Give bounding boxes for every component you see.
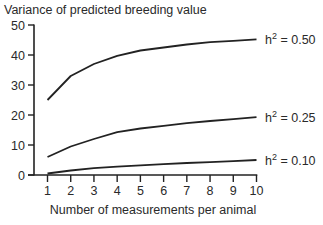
y-tick-label: 10 bbox=[11, 139, 25, 153]
y-tick-label: 20 bbox=[11, 109, 25, 123]
x-tick-label: 4 bbox=[114, 184, 121, 198]
x-tick-label: 10 bbox=[250, 184, 264, 198]
x-tick-label: 7 bbox=[183, 184, 190, 198]
series-line-0 bbox=[48, 39, 257, 100]
series-lines bbox=[48, 39, 257, 173]
x-tick-label: 5 bbox=[137, 184, 144, 198]
x-tick-label: 6 bbox=[160, 184, 167, 198]
series-labels: h2 = 0.50h2 = 0.25h2 = 0.10 bbox=[265, 31, 316, 168]
x-tick-label: 9 bbox=[230, 184, 237, 198]
y-tick-label: 0 bbox=[18, 169, 25, 183]
y-tick-label: 50 bbox=[11, 19, 25, 33]
series-line-1 bbox=[48, 117, 257, 157]
y-tick-label: 40 bbox=[11, 49, 25, 63]
series-label-0: h2 = 0.50 bbox=[265, 31, 316, 47]
series-label-2: h2 = 0.10 bbox=[265, 152, 316, 168]
chart-title: Variance of predicted breeding value bbox=[4, 3, 207, 17]
x-tick-label: 2 bbox=[67, 184, 74, 198]
chart: Variance of predicted breeding value 010… bbox=[0, 0, 323, 225]
x-tick-label: 3 bbox=[90, 184, 97, 198]
y-axis: 01020304050 bbox=[11, 19, 34, 183]
x-axis-label: Number of measurements per animal bbox=[50, 203, 256, 217]
series-label-1: h2 = 0.25 bbox=[265, 109, 316, 125]
x-tick-label: 8 bbox=[207, 184, 214, 198]
x-tick-label: 1 bbox=[44, 184, 51, 198]
y-tick-label: 30 bbox=[11, 79, 25, 93]
x-axis: 12345678910 bbox=[28, 175, 263, 198]
series-line-2 bbox=[48, 160, 257, 174]
